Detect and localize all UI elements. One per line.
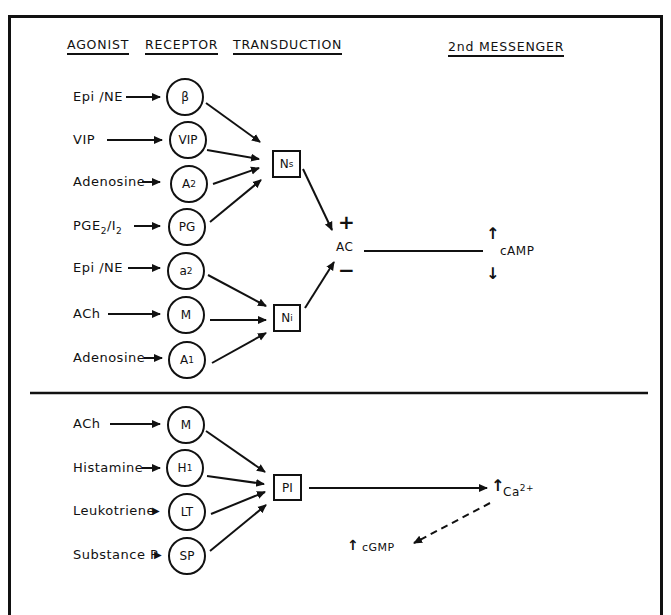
inhibitory-sign: −	[338, 260, 355, 280]
receptor-vip: VIP	[169, 121, 207, 159]
header-receptor: RECEPTOR	[145, 38, 218, 55]
receptor-muscarinic: M	[167, 296, 205, 334]
transducer-pi: PI	[273, 474, 302, 501]
calcium-label: Ca2+	[503, 483, 534, 499]
agonist-leukotriene: Leukotriene	[73, 503, 155, 518]
receptor-muscarinic-lower: M	[167, 406, 205, 444]
agonist-vip: VIP	[73, 132, 95, 147]
arrow-substance-p-icon: ▶	[154, 549, 162, 560]
agonist-substance-p: Substance P	[73, 547, 158, 562]
receptor-lt: LT	[168, 493, 206, 531]
receptor-h1: H1	[166, 449, 204, 487]
receptor-a1: A1	[168, 341, 206, 379]
receptor-sp: SP	[168, 537, 206, 575]
stimulatory-sign: +	[338, 212, 355, 232]
agonist-adenosine: Adenosine	[73, 174, 145, 189]
receptor-a2: A2	[170, 165, 208, 203]
agonist-ach-lower: ACh	[73, 416, 100, 431]
agonist-epi-ne: Epi /NE	[73, 89, 123, 104]
agonist-histamine: Histamine	[73, 460, 143, 475]
camp-down-arrow-icon: ↓	[486, 264, 500, 283]
cgmp-label: cGMP	[362, 541, 395, 554]
calcium-to-cgmp-dashed-arrow	[414, 503, 490, 543]
header-second-messenger: 2nd MESSENGER	[448, 40, 564, 57]
header-agonist: AGONIST	[67, 38, 129, 55]
camp-up-arrow-icon: ↑	[486, 224, 500, 243]
cgmp-up-arrow-icon: ↑	[347, 537, 359, 553]
receptor-alpha2: a2	[167, 252, 205, 290]
receptor-pg: PG	[168, 208, 206, 246]
agonist-ach: ACh	[73, 306, 100, 321]
agonist-adenosine-a1: Adenosine	[73, 350, 145, 365]
transducer-ns: Ns	[272, 150, 301, 178]
agonist-epi-ne-alpha: Epi /NE	[73, 260, 123, 275]
arrow-leukotriene-icon: ▶	[152, 505, 160, 516]
header-transduction: TRANSDUCTION	[233, 38, 342, 55]
transducer-ni: Ni	[273, 304, 301, 332]
agonist-pge2-i2: PGE2/I2	[73, 218, 122, 236]
camp-label: cAMP	[500, 244, 534, 258]
receptor-beta: β	[166, 78, 204, 116]
adenylyl-cyclase-label: AC	[336, 240, 353, 254]
